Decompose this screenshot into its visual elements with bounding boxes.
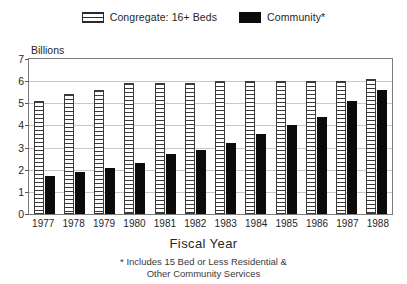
bar-community [75, 172, 85, 214]
x-axis-tick-label: 1988 [363, 218, 393, 229]
legend-item-congregate: Congregate: 16+ Beds [82, 11, 217, 23]
legend-item-community: Community* [239, 11, 325, 23]
bar-group [332, 59, 362, 214]
hatched-swatch-icon [82, 12, 104, 23]
bar-chart: Congregate: 16+ Beds Community* Billions… [0, 0, 407, 284]
bar-congregate [306, 81, 316, 214]
bar-group [29, 59, 59, 214]
footnote-line-1: * Includes 15 Bed or Less Residential & [0, 256, 407, 268]
bar-group [241, 59, 271, 214]
y-axis-unit-label: Billions [31, 44, 64, 56]
bar-group [90, 59, 120, 214]
solid-swatch-icon [239, 12, 261, 23]
bar-community [45, 176, 55, 214]
x-axis-title: Fiscal Year [0, 236, 407, 251]
x-axis-tick-label: 1977 [28, 218, 58, 229]
bar-congregate [64, 94, 74, 214]
bar-congregate [366, 79, 376, 214]
bar-community [166, 154, 176, 214]
bar-group [120, 59, 150, 214]
plot-area: 01234567 [28, 58, 393, 215]
bar-community [317, 117, 327, 214]
bar-group [301, 59, 331, 214]
bar-congregate [124, 83, 134, 214]
bar-community [196, 150, 206, 214]
x-axis-tick-label: 1986 [302, 218, 332, 229]
x-axis-tick-label: 1981 [150, 218, 180, 229]
bar-congregate [276, 81, 286, 214]
bar-group [59, 59, 89, 214]
bar-congregate [185, 83, 195, 214]
bar-congregate [215, 81, 225, 214]
x-axis-tick-label: 1979 [89, 218, 119, 229]
x-axis-tick-label: 1978 [58, 218, 88, 229]
bar-congregate [245, 81, 255, 214]
y-axis-tick-mark [25, 214, 29, 215]
bar-congregate [34, 101, 44, 214]
bar-community [226, 143, 236, 214]
bar-community [256, 134, 266, 214]
bar-groups [29, 59, 392, 214]
legend-label-community: Community* [267, 11, 325, 23]
bar-community [347, 101, 357, 214]
bar-congregate [155, 83, 165, 214]
x-axis-tick-label: 1984 [241, 218, 271, 229]
bar-group [211, 59, 241, 214]
bar-community [377, 90, 387, 214]
bar-group [180, 59, 210, 214]
chart-legend: Congregate: 16+ Beds Community* [0, 11, 407, 23]
bar-community [287, 125, 297, 214]
x-axis-tick-label: 1982 [180, 218, 210, 229]
legend-label-congregate: Congregate: 16+ Beds [110, 11, 217, 23]
bar-congregate [336, 81, 346, 214]
bar-group [271, 59, 301, 214]
x-axis-tick-label: 1987 [332, 218, 362, 229]
x-axis-tick-label: 1980 [119, 218, 149, 229]
bar-group [150, 59, 180, 214]
bar-group [362, 59, 392, 214]
x-axis-tick-label: 1983 [211, 218, 241, 229]
x-axis-tick-label: 1985 [271, 218, 301, 229]
footnote-line-2: Other Community Services [0, 268, 407, 280]
chart-footnote: * Includes 15 Bed or Less Residential & … [0, 256, 407, 279]
bar-community [105, 168, 115, 215]
bar-community [135, 163, 145, 214]
bar-congregate [94, 90, 104, 214]
x-axis-tick-labels: 1977197819791980198119821983198419851986… [28, 218, 393, 229]
